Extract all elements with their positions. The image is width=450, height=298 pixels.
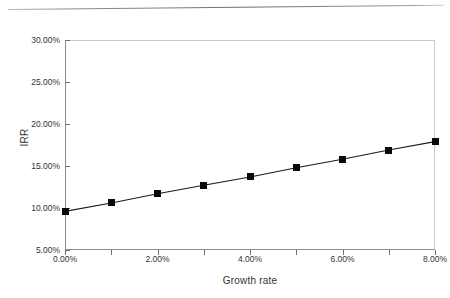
data-point-marker [385,147,392,154]
data-point-marker [200,182,207,189]
data-point-marker [154,190,161,197]
data-point-marker [339,156,346,163]
series-line [0,0,450,298]
data-point-marker [293,164,300,171]
data-point-marker [62,208,69,215]
data-point-marker [247,173,254,180]
data-point-marker [108,199,115,206]
data-point-marker [432,138,439,145]
x-axis-title: Growth rate [65,275,435,286]
irr-growth-rate-chart: IRR 5.00%10.00%15.00%20.00%25.00%30.00% … [0,0,450,298]
